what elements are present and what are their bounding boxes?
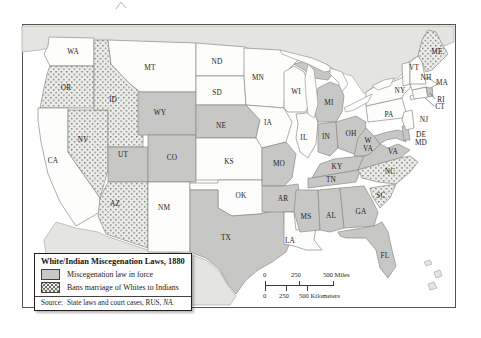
state-fl bbox=[338, 222, 396, 278]
state-label-ok: OK bbox=[236, 191, 247, 200]
state-label-ms: MS bbox=[301, 212, 312, 221]
state-label-ma: MA bbox=[436, 78, 449, 87]
scale-miles-0: 0 bbox=[263, 271, 266, 279]
state-label-ks: KS bbox=[224, 157, 234, 166]
island-2 bbox=[434, 270, 442, 278]
state-label-nj: NJ bbox=[420, 115, 429, 124]
island-3 bbox=[428, 282, 437, 290]
state-label-vt: VT bbox=[409, 63, 419, 72]
state-label-fl: FL bbox=[381, 251, 390, 260]
state-label-ky: KY bbox=[332, 162, 343, 171]
figure: WAORCANVIDMTWYUTCOAZNMNDSDNEKSOKTXMNIAMO… bbox=[0, 0, 481, 338]
state-label-mn: MN bbox=[252, 73, 265, 82]
state-label-ne: NE bbox=[216, 121, 226, 130]
legend-swatch-gray bbox=[41, 269, 60, 280]
scale-tick bbox=[299, 281, 300, 286]
state-label-ut: UT bbox=[118, 150, 128, 159]
state-label-nc: NC bbox=[385, 167, 396, 176]
map-islands bbox=[424, 260, 442, 290]
state-ms bbox=[294, 190, 320, 232]
state-label-wy: WY bbox=[154, 108, 167, 117]
state-label-me: ME bbox=[431, 47, 443, 56]
state-label-ny: NY bbox=[395, 86, 406, 95]
state-label-pa: PA bbox=[384, 110, 394, 119]
state-al bbox=[318, 188, 344, 232]
state-md bbox=[374, 130, 406, 144]
state-label-id: ID bbox=[109, 95, 117, 104]
scale-km-0: 0 bbox=[263, 292, 266, 300]
scale-tick bbox=[265, 286, 266, 291]
state-label-la: LA bbox=[285, 236, 296, 245]
scale-miles-250: 250 bbox=[291, 271, 301, 279]
state-label-tx: TX bbox=[221, 233, 232, 242]
label-leader-2 bbox=[425, 98, 434, 106]
print-artifact-mark bbox=[116, 2, 126, 9]
state-label-tn: TN bbox=[326, 175, 337, 184]
state-label-ct: CT bbox=[435, 102, 445, 111]
scale-tick bbox=[307, 286, 308, 291]
state-label-co: CO bbox=[167, 153, 178, 162]
source-note: Source:State laws and court cases, RUS, … bbox=[35, 296, 191, 307]
state-label-az: AZ bbox=[110, 199, 120, 208]
state-label-va: VA bbox=[363, 144, 374, 153]
scale-km-500: 500 Kilometers bbox=[299, 292, 340, 300]
state-label-nh: NH bbox=[421, 73, 432, 82]
scale-tick bbox=[333, 281, 334, 286]
state-label-va: VA bbox=[388, 147, 399, 156]
state-nm bbox=[148, 182, 190, 252]
state-label-mo: MO bbox=[273, 159, 285, 168]
state-label-ca: CA bbox=[48, 156, 59, 165]
source-prefix: Source: bbox=[41, 299, 67, 307]
state-label-in: IN bbox=[322, 132, 331, 141]
legend-label-ban-whites-indians: Bans marriage of Whites to Indians bbox=[60, 283, 179, 292]
source-text: State laws and court cases, RUS, bbox=[67, 299, 163, 307]
legend-swatch-dotted bbox=[41, 282, 60, 293]
source-emphasis: NA. bbox=[163, 299, 174, 307]
island-1 bbox=[424, 260, 432, 266]
state-label-wi: WI bbox=[291, 87, 301, 96]
state-label-il: IL bbox=[300, 133, 308, 142]
legend-item-ban-whites-indians: Bans marriage of Whites to Indians bbox=[41, 282, 185, 292]
state-label-oh: OH bbox=[346, 129, 357, 138]
state-wy bbox=[138, 92, 196, 135]
scale-miles-500: 500 Miles bbox=[323, 271, 350, 279]
legend-label-law-in-force: Miscegenation law in force bbox=[60, 270, 153, 279]
state-label-nm: NM bbox=[158, 203, 170, 212]
state-label-sc: SC bbox=[376, 191, 385, 200]
state-label-sd: SD bbox=[212, 88, 222, 97]
legend-title: White/Indian Miscegenation Laws, 1880 bbox=[41, 257, 185, 266]
state-label-wa: WA bbox=[67, 47, 79, 56]
state-label-ar: AR bbox=[278, 194, 289, 203]
state-label-ga: GA bbox=[356, 207, 367, 216]
state-label-ia: IA bbox=[264, 118, 273, 127]
scale-km-250: 250 bbox=[279, 292, 289, 300]
scale-tick bbox=[265, 281, 266, 286]
scale-tick bbox=[286, 286, 287, 291]
scale-bar: 0 250 500 Miles 0 250 500 Kilometers bbox=[261, 271, 381, 303]
legend-box: White/Indian Miscegenation Laws, 1880 Mi… bbox=[34, 253, 192, 311]
state-label-mi: MI bbox=[324, 98, 334, 107]
state-label-nv: NV bbox=[78, 135, 89, 144]
state-label-md: MD bbox=[415, 138, 427, 147]
state-label-al: AL bbox=[326, 211, 336, 220]
state-label-mt: MT bbox=[144, 63, 156, 72]
state-label-nd: ND bbox=[212, 57, 223, 66]
legend-item-law-in-force: Miscegenation law in force bbox=[41, 269, 185, 279]
state-label-or: OR bbox=[61, 83, 72, 92]
